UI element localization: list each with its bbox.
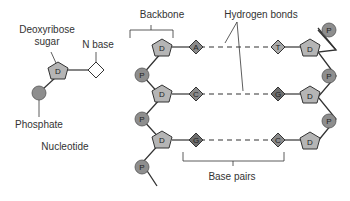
svg-text:P: P: [139, 115, 144, 124]
base-right-3: C: [271, 133, 285, 147]
svg-text:G: G: [275, 90, 281, 99]
dna-strand-group: Backbone Hydrogen bonds Base pairs D D: [130, 9, 336, 186]
base-left-1: A: [189, 40, 203, 54]
svg-text:D: D: [159, 90, 165, 99]
svg-text:G: G: [193, 136, 199, 145]
nucleotide-group: Deoxyribose sugar N base D Phosphate Nuc…: [15, 24, 114, 152]
backbone-label: Backbone: [140, 9, 185, 20]
left-phosphate-1: P: [135, 68, 149, 82]
svg-text:D: D: [307, 92, 313, 101]
dna-diagram: Deoxyribose sugar N base D Phosphate Nuc…: [0, 0, 350, 201]
base-right-1: T: [271, 40, 285, 54]
right-phosphate-3: P: [322, 114, 336, 128]
phosphate-label: Phosphate: [15, 119, 63, 130]
right-sugar-3: D: [300, 132, 320, 149]
svg-text:P: P: [139, 163, 144, 172]
hydrogen-bonds-label: Hydrogen bonds: [224, 9, 297, 20]
left-phosphate-2: P: [135, 112, 149, 126]
base-label: N base: [82, 39, 114, 50]
left-sugar-1: D: [152, 39, 172, 56]
left-phosphate-3: P: [135, 160, 149, 174]
phosphate-icon: [32, 86, 46, 100]
svg-text:D: D: [307, 45, 313, 54]
svg-text:A: A: [193, 43, 199, 52]
svg-text:P: P: [326, 26, 331, 35]
svg-text:P: P: [326, 72, 331, 81]
svg-text:D: D: [159, 44, 165, 53]
sugar-label-line1: Deoxyribose: [19, 24, 75, 35]
svg-text:C: C: [275, 136, 281, 145]
left-sugar-2: D: [152, 85, 172, 102]
right-sugar-1: D: [300, 39, 320, 56]
right-phosphate-2: P: [322, 69, 336, 83]
base-right-2: G: [271, 87, 285, 101]
sugar-label-line2: sugar: [34, 36, 60, 47]
svg-text:T: T: [276, 43, 281, 52]
svg-text:P: P: [139, 71, 144, 80]
svg-text:C: C: [193, 90, 199, 99]
right-phosphate-1: P: [322, 23, 336, 37]
base-left-3: G: [189, 133, 203, 147]
svg-text:D: D: [307, 138, 313, 147]
sugar-glyph: D: [55, 67, 61, 76]
svg-text:D: D: [159, 136, 165, 145]
base-pairs-label: Base pairs: [208, 171, 255, 182]
base-left-2: C: [189, 87, 203, 101]
nucleotide-title: Nucleotide: [41, 141, 89, 152]
nitrogen-base-icon: [88, 62, 104, 78]
right-sugar-2: D: [300, 86, 320, 103]
svg-text:P: P: [326, 117, 331, 126]
